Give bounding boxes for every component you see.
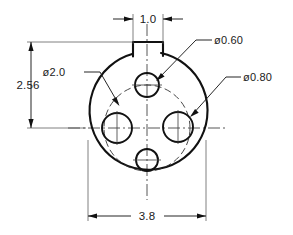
width-arrow-left [88, 213, 97, 218]
tab-width-arrow-left [124, 16, 133, 21]
outer-width-label: 3.8 [139, 210, 156, 222]
engineering-drawing: 1.0 2.56 3.8 ø2.0 [0, 0, 293, 235]
small-hole-diameter-callout: ø0.60 [156, 34, 243, 81]
height-arrow-bottom [28, 119, 33, 128]
centerlines-group [68, 24, 228, 200]
holes-group [102, 73, 193, 171]
tab-outline [133, 42, 163, 57]
bolt-circle-diameter-callout: ø2.0 [43, 66, 120, 106]
bolt-circle-diameter-label: ø2.0 [43, 66, 66, 78]
technical-drawing-canvas: 1.0 2.56 3.8 ø2.0 [0, 0, 293, 235]
large-hole-diameter-label: ø0.80 [243, 71, 272, 83]
tab-width-label: 1.0 [140, 13, 157, 25]
height-arrow-top [28, 42, 33, 51]
large-hole-leader-arrow [190, 109, 199, 117]
small-hole-diameter-label: ø0.60 [214, 34, 243, 46]
width-arrow-right [197, 213, 206, 218]
tab-width-dimension: 1.0 [113, 13, 183, 44]
large-hole-diameter-callout: ø0.80 [190, 71, 272, 117]
overall-height-dimension: 2.56 [16, 42, 132, 128]
overall-height-label: 2.56 [16, 79, 39, 91]
tab-width-arrow-right [163, 16, 172, 21]
part-outline-group [90, 42, 208, 170]
small-hole-leader-line [158, 40, 212, 79]
